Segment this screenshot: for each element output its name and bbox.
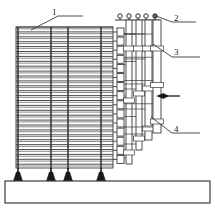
terminal-circle bbox=[127, 14, 131, 18]
callout-label-2: 2 bbox=[174, 14, 179, 23]
callout-label-1: 1 bbox=[52, 8, 57, 17]
busbar-tap bbox=[124, 98, 135, 103]
terminal-circle bbox=[136, 14, 140, 18]
connector-block bbox=[117, 137, 124, 145]
busbars bbox=[124, 20, 164, 164]
terminal-circle bbox=[118, 14, 122, 18]
callout-leader bbox=[31, 16, 83, 30]
busbar-tap bbox=[124, 46, 135, 51]
busbar-d bbox=[153, 20, 161, 133]
terminal-circles bbox=[118, 14, 157, 20]
base-slab bbox=[5, 181, 210, 203]
busbar-tap bbox=[124, 150, 135, 155]
connector-block bbox=[117, 46, 124, 54]
connector-block bbox=[117, 101, 124, 109]
base-slab-rect bbox=[5, 181, 210, 203]
connector-block bbox=[117, 55, 124, 63]
busbar-tap bbox=[151, 83, 164, 88]
connector-block bbox=[117, 28, 124, 36]
connector-block bbox=[117, 146, 124, 154]
column-foot bbox=[64, 172, 73, 181]
busbar-b bbox=[136, 20, 142, 150]
busbar-tap bbox=[134, 91, 145, 96]
callout-label-4: 4 bbox=[174, 125, 179, 134]
terminal-circle bbox=[144, 14, 148, 18]
callout-label-3: 3 bbox=[174, 48, 179, 57]
busbar-tap bbox=[134, 136, 145, 141]
technical-diagram-figure: 1 2 3 4 bbox=[0, 0, 215, 212]
connector-block bbox=[117, 37, 124, 45]
connector-blocks bbox=[113, 28, 124, 163]
connector-block bbox=[117, 74, 124, 82]
busbar-a bbox=[126, 20, 132, 164]
column-foot bbox=[97, 172, 106, 181]
connector-block bbox=[117, 119, 124, 127]
column-foot bbox=[14, 172, 23, 181]
diagram-canvas bbox=[0, 0, 215, 212]
column-feet bbox=[14, 168, 106, 181]
column-foot bbox=[47, 172, 56, 181]
connector-block bbox=[117, 128, 124, 136]
connector-block bbox=[117, 92, 124, 100]
plate-stack bbox=[16, 27, 113, 168]
connector-block bbox=[117, 110, 124, 118]
connector-block bbox=[117, 155, 124, 163]
connector-block bbox=[117, 64, 124, 72]
connector-block bbox=[117, 83, 124, 91]
